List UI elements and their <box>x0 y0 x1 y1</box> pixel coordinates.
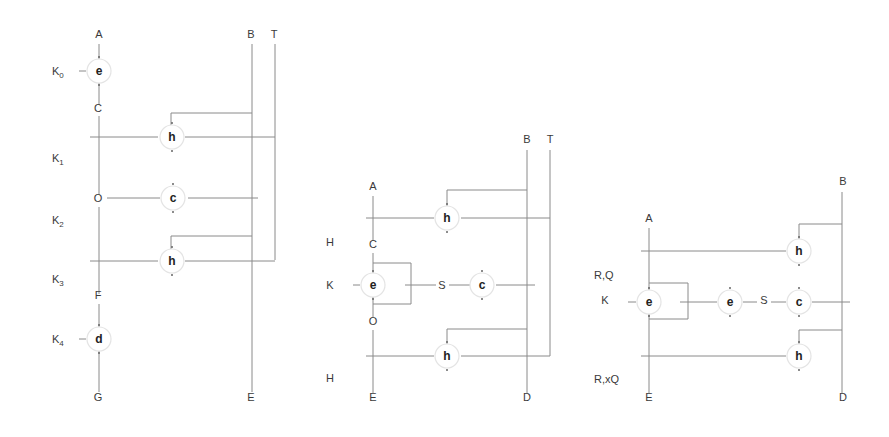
port-dot <box>171 122 173 124</box>
connector-line <box>447 190 527 206</box>
signal-label: C <box>94 102 102 114</box>
connector-line <box>799 224 842 239</box>
node-label: h <box>795 244 802 258</box>
signal-label: H <box>326 372 334 384</box>
node-h: h <box>787 341 811 371</box>
port-dot <box>729 287 731 289</box>
diagram-3: heechBAR,QKSR,xQED <box>594 175 850 403</box>
signal-label: K2 <box>52 214 64 229</box>
port-dot <box>98 352 100 354</box>
port-dot <box>481 298 483 300</box>
node-label: h <box>443 349 450 363</box>
port-dot <box>171 246 173 248</box>
connector-line <box>799 330 842 344</box>
diagram-canvas: ehchdABTK0CK1OK2K3FK4GE hechBTAHCKSOHED … <box>0 0 889 437</box>
port-dot <box>98 84 100 86</box>
signal-label: K <box>601 294 609 306</box>
node-label: h <box>795 349 802 363</box>
node-h: h <box>160 122 184 152</box>
port-dot <box>798 287 800 289</box>
node-c: c <box>470 270 494 300</box>
signal-label: O <box>94 192 103 204</box>
port-dot <box>372 298 374 300</box>
port-dot <box>648 315 650 317</box>
connector-line <box>171 113 252 125</box>
node-h: h <box>160 246 184 276</box>
node-label: c <box>796 295 803 309</box>
node-e: e <box>718 287 742 317</box>
signal-label: A <box>645 212 653 224</box>
signal-label: T <box>271 28 278 40</box>
node-e: e <box>87 56 111 86</box>
port-dot <box>372 270 374 272</box>
signal-label: R,Q <box>594 269 614 281</box>
port-dot <box>798 369 800 371</box>
port-dot <box>798 315 800 317</box>
node-label: e <box>646 295 653 309</box>
port-dot <box>729 315 731 317</box>
signal-label: O <box>369 315 378 327</box>
port-dot <box>98 324 100 326</box>
port-dot <box>172 183 174 185</box>
node-h: h <box>435 203 459 233</box>
signal-label: R,xQ <box>594 373 620 385</box>
signal-label: E <box>369 391 376 403</box>
node-label: e <box>96 64 103 78</box>
signal-label: G <box>94 391 103 403</box>
node-label: h <box>168 130 175 144</box>
node-e: e <box>637 287 661 317</box>
node-label: h <box>443 211 450 225</box>
port-dot <box>446 203 448 205</box>
signal-label: B <box>523 133 530 145</box>
port-dot <box>171 274 173 276</box>
node-e: e <box>361 270 385 300</box>
port-dot <box>481 270 483 272</box>
signal-label: K <box>326 279 334 291</box>
port-dot <box>98 56 100 58</box>
node-label: e <box>727 295 734 309</box>
signal-label: H <box>326 236 334 248</box>
connector-line <box>447 329 527 344</box>
port-dot <box>798 341 800 343</box>
signal-label: D <box>523 391 531 403</box>
port-dot <box>172 211 174 213</box>
signal-label: K0 <box>52 65 64 80</box>
signal-label: K1 <box>52 152 64 167</box>
port-dot <box>798 264 800 266</box>
node-label: c <box>479 278 486 292</box>
signal-label: B <box>839 175 846 187</box>
signal-label: E <box>247 391 254 403</box>
signal-label: K4 <box>52 333 64 348</box>
port-dot <box>648 287 650 289</box>
signal-label: E <box>645 391 652 403</box>
node-h: h <box>435 341 459 371</box>
port-dot <box>446 231 448 233</box>
node-c: c <box>161 183 185 213</box>
port-dot <box>171 150 173 152</box>
node-label: c <box>170 191 177 205</box>
signal-label: S <box>760 294 767 306</box>
port-dot <box>446 369 448 371</box>
node-d: d <box>87 324 111 354</box>
connector-line <box>171 236 252 249</box>
diagram-2: hechBTAHCKSOHED <box>326 133 554 403</box>
signal-label: T <box>547 133 554 145</box>
signal-label: F <box>95 289 102 301</box>
diagram-1: ehchdABTK0CK1OK2K3FK4GE <box>52 28 278 403</box>
node-label: e <box>370 278 377 292</box>
signal-label: C <box>369 238 377 250</box>
signal-label: S <box>438 279 445 291</box>
node-c: c <box>787 287 811 317</box>
signal-label: A <box>95 28 103 40</box>
port-dot <box>798 236 800 238</box>
node-label: h <box>168 254 175 268</box>
node-h: h <box>787 236 811 266</box>
port-dot <box>446 341 448 343</box>
signal-label: K3 <box>52 273 64 288</box>
signal-label: B <box>247 28 254 40</box>
signal-label: D <box>839 391 847 403</box>
signal-label: A <box>369 180 377 192</box>
node-label: d <box>95 332 102 346</box>
